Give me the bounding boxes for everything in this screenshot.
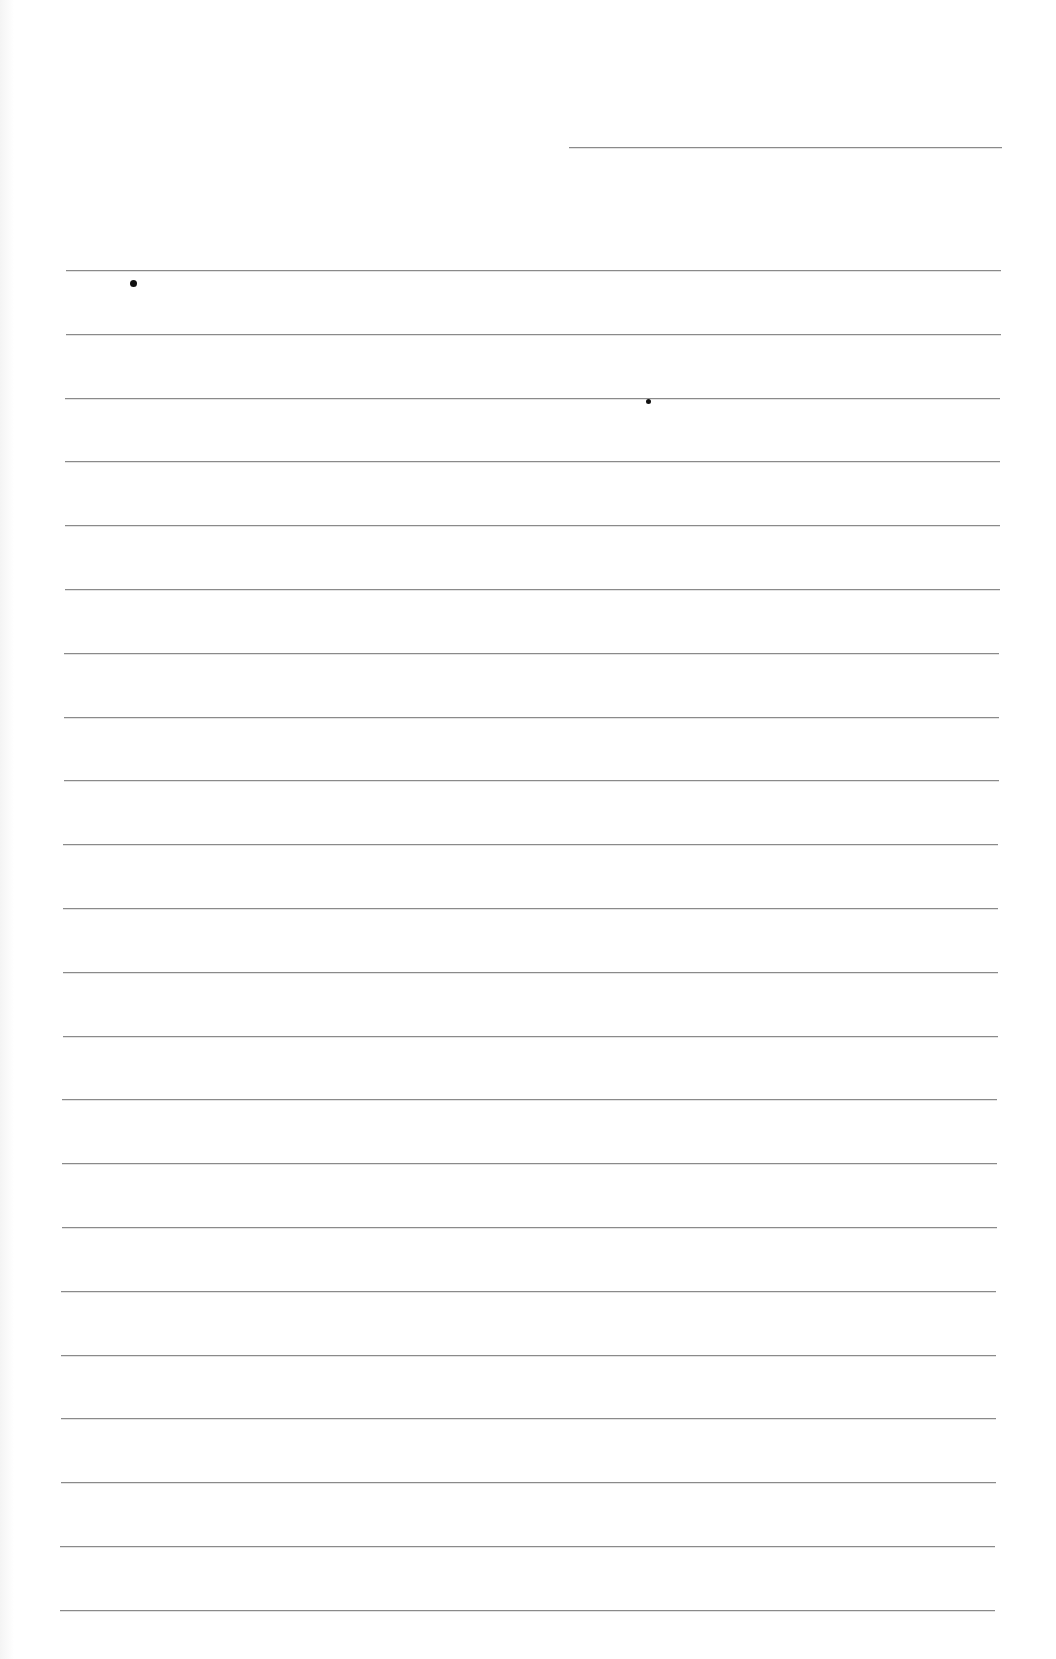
ruled-line: [63, 1036, 998, 1037]
ink-dot: [130, 280, 137, 287]
ruled-line: [62, 1099, 997, 1100]
ruled-line: [65, 525, 1000, 526]
lined-paper-page: [0, 0, 1056, 1659]
ruled-line: [63, 844, 998, 845]
ruled-line: [64, 780, 999, 781]
ruled-line: [60, 1546, 995, 1547]
ink-dot: [646, 399, 651, 404]
ruled-line: [64, 717, 999, 718]
ruled-line: [60, 1610, 995, 1611]
ruled-line: [62, 1163, 997, 1164]
ruled-line: [63, 908, 998, 909]
ruled-line: [61, 1418, 996, 1419]
header-rule-line: [569, 147, 1002, 148]
ruled-line: [66, 334, 1001, 335]
ruled-line: [65, 461, 1000, 462]
ruled-line: [65, 589, 1000, 590]
ruled-line: [64, 653, 999, 654]
ruled-line: [62, 1227, 997, 1228]
ruled-line: [61, 1482, 996, 1483]
ruled-line: [63, 972, 998, 973]
ruled-line: [65, 398, 1000, 399]
ruled-line: [66, 270, 1001, 271]
ruled-line: [61, 1291, 996, 1292]
ruled-line: [61, 1355, 996, 1356]
